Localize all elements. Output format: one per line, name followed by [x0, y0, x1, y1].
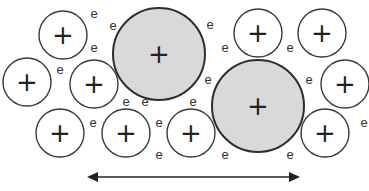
- electron-label: e: [305, 72, 312, 87]
- electron-label: e: [286, 40, 293, 55]
- small-ion: +: [321, 60, 369, 108]
- small-ion: +: [102, 109, 150, 157]
- electron-label: e: [155, 115, 162, 130]
- small-ion: +: [70, 60, 118, 108]
- small-ion: +: [234, 9, 282, 57]
- plus-charge-icon: +: [83, 69, 105, 99]
- small-ion: +: [167, 109, 215, 157]
- double-arrow: [87, 172, 300, 182]
- plus-charge-icon: +: [334, 69, 356, 99]
- small-ion: +: [298, 9, 346, 57]
- electron-label: e: [221, 147, 228, 162]
- plus-charge-icon: +: [247, 18, 269, 48]
- ion-lattice-diagram: ++ ++++++++++ eeeeeeeeeeeeeeeeee: [0, 0, 369, 191]
- electron-label: e: [90, 40, 97, 55]
- electron-label: e: [56, 62, 63, 77]
- large-ion: +: [212, 60, 304, 152]
- electron-label: e: [206, 17, 213, 32]
- small-ion: +: [36, 109, 84, 157]
- electron-label: e: [204, 72, 211, 87]
- electron-label: e: [89, 115, 96, 130]
- electron-label: e: [286, 147, 293, 162]
- arrow-left-head-icon: [87, 172, 98, 182]
- large-ion: +: [113, 8, 205, 100]
- electron-label: e: [189, 94, 196, 109]
- electron-label: e: [155, 147, 162, 162]
- electron-label: e: [90, 6, 97, 21]
- plus-charge-icon: +: [52, 20, 74, 50]
- plus-charge-icon: +: [247, 91, 269, 121]
- electron-label: e: [122, 94, 129, 109]
- plus-charge-icon: +: [180, 118, 202, 148]
- electron-label: e: [141, 94, 148, 109]
- electron-label: e: [360, 115, 367, 130]
- plus-charge-icon: +: [49, 118, 71, 148]
- small-ion: +: [3, 58, 51, 106]
- electron-label: e: [109, 18, 116, 33]
- plus-charge-icon: +: [314, 118, 336, 148]
- arrow-right-head-icon: [289, 172, 300, 182]
- small-ion: +: [39, 11, 87, 59]
- plus-charge-icon: +: [148, 39, 170, 69]
- electron-label: e: [221, 40, 228, 55]
- small-ion: +: [301, 109, 349, 157]
- plus-charge-icon: +: [16, 67, 38, 97]
- plus-charge-icon: +: [311, 18, 333, 48]
- diagram-canvas: ++ ++++++++++ eeeeeeeeeeeeeeeeee: [0, 0, 369, 191]
- plus-charge-icon: +: [115, 118, 137, 148]
